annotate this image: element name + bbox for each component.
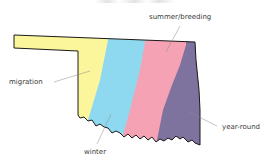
label-migration: migration xyxy=(9,78,43,86)
label-summer-breeding: summer/breeding xyxy=(149,13,211,21)
range-map: summer/breeding migration winter year-ro… xyxy=(0,0,271,161)
label-winter: winter xyxy=(84,148,106,156)
label-year-round: year-round xyxy=(222,123,260,131)
cropped-title-remnant xyxy=(95,0,175,3)
